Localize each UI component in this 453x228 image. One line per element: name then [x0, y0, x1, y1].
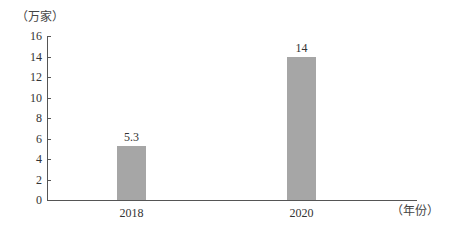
x-category-label: 2020: [282, 207, 322, 219]
y-tick-mark: [47, 118, 51, 119]
bar-value-label: 5.3: [112, 131, 152, 143]
y-tick-mark: [47, 159, 51, 160]
y-tick-label: 12: [12, 71, 42, 83]
y-tick-mark: [47, 36, 51, 37]
y-tick-label: 10: [12, 92, 42, 104]
y-tick-label: 8: [12, 112, 42, 124]
bar-2018: [117, 146, 146, 200]
y-tick-label: 6: [12, 133, 42, 145]
y-tick-mark: [47, 77, 51, 78]
y-tick-label: 16: [12, 30, 42, 42]
y-tick-label: 4: [12, 153, 42, 165]
x-axis-line: [47, 200, 417, 201]
y-tick-mark: [47, 200, 51, 201]
y-tick-mark: [47, 57, 51, 58]
y-axis-unit-label: （万家）: [16, 7, 64, 25]
bar-2020: [287, 57, 316, 200]
bar-value-label: 14: [282, 42, 322, 54]
x-category-label: 2018: [112, 207, 152, 219]
y-tick-label: 2: [12, 174, 42, 186]
y-tick-mark: [47, 139, 51, 140]
y-tick-label: 0: [12, 194, 42, 206]
y-tick-mark: [47, 98, 51, 99]
y-tick-mark: [47, 180, 51, 181]
y-tick-label: 14: [12, 51, 42, 63]
x-axis-unit-label: （年份）: [391, 201, 439, 219]
